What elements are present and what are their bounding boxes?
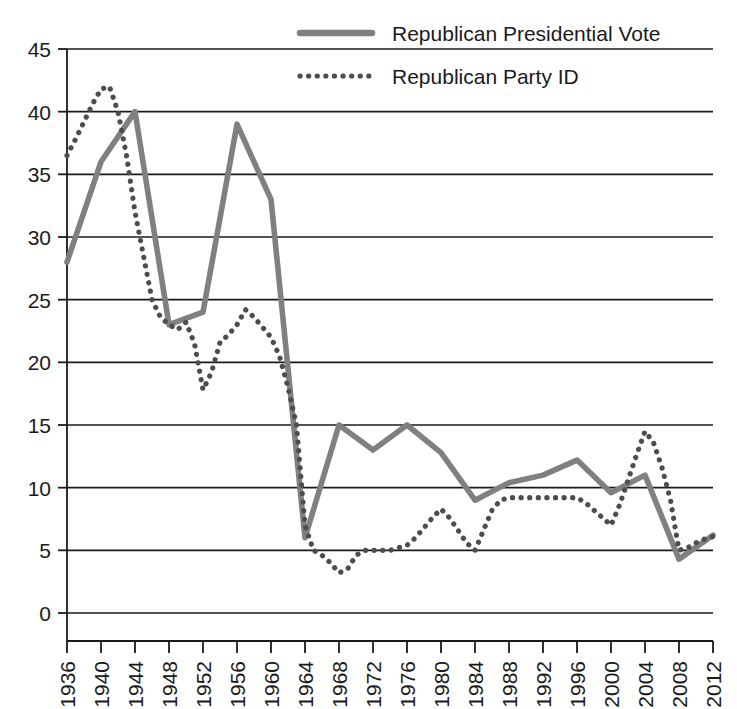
series-group bbox=[67, 87, 713, 573]
line-chart: 454035302520151050 193619401944194819521… bbox=[0, 0, 737, 709]
x-tick-label-1956: 1956 bbox=[226, 661, 249, 708]
x-tick-label-1992: 1992 bbox=[532, 661, 555, 708]
x-tick-label-1952: 1952 bbox=[192, 661, 215, 708]
x-tick-label-2000: 2000 bbox=[600, 661, 623, 708]
gridlines-group bbox=[67, 49, 713, 613]
y-tick-label-5: 5 bbox=[39, 539, 51, 562]
x-tick-group: 1936194019441948195219561960196419681972… bbox=[56, 641, 725, 708]
x-tick-label-2008: 2008 bbox=[668, 661, 691, 708]
x-tick-label-1960: 1960 bbox=[260, 661, 283, 708]
x-tick-label-1996: 1996 bbox=[566, 661, 589, 708]
chart-container: 454035302520151050 193619401944194819521… bbox=[0, 0, 737, 709]
x-tick-label-2004: 2004 bbox=[634, 661, 657, 708]
x-tick-label-1980: 1980 bbox=[430, 661, 453, 708]
y-tick-label-0: 0 bbox=[39, 602, 51, 625]
y-tick-label-40: 40 bbox=[28, 101, 51, 124]
x-tick-label-1940: 1940 bbox=[90, 661, 113, 708]
x-tick-label-1968: 1968 bbox=[328, 661, 351, 708]
x-tick-label-1944: 1944 bbox=[124, 661, 147, 708]
x-tick-label-1988: 1988 bbox=[498, 661, 521, 708]
legend-item-party-id: Republican Party ID bbox=[392, 65, 579, 88]
y-tick-label-30: 30 bbox=[28, 226, 51, 249]
y-tick-label-35: 35 bbox=[28, 163, 51, 186]
x-tick-label-2012: 2012 bbox=[702, 661, 725, 708]
series-line-presidential-vote bbox=[67, 112, 713, 559]
series-line-party-id bbox=[67, 87, 713, 573]
x-tick-label-1936: 1936 bbox=[56, 661, 79, 708]
chart-legend: Republican Presidential VoteRepublican P… bbox=[300, 22, 661, 88]
y-tick-label-10: 10 bbox=[28, 477, 51, 500]
y-tick-group: 454035302520151050 bbox=[28, 38, 67, 625]
x-tick-label-1972: 1972 bbox=[362, 661, 385, 708]
legend-item-presidential-vote: Republican Presidential Vote bbox=[392, 22, 661, 45]
x-tick-label-1964: 1964 bbox=[294, 661, 317, 708]
x-tick-label-1984: 1984 bbox=[464, 661, 487, 708]
y-tick-label-15: 15 bbox=[28, 414, 51, 437]
y-tick-label-45: 45 bbox=[28, 38, 51, 61]
x-tick-label-1976: 1976 bbox=[396, 661, 419, 708]
y-tick-label-20: 20 bbox=[28, 351, 51, 374]
y-tick-label-25: 25 bbox=[28, 289, 51, 312]
x-tick-label-1948: 1948 bbox=[158, 661, 181, 708]
